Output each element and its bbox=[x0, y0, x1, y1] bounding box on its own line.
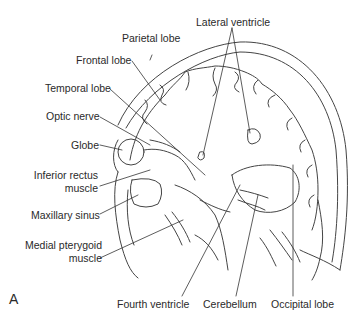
label-inferior-rectus-line1: Inferior rectus bbox=[30, 169, 98, 181]
label-medial-pterygoid: Medial pterygoid muscle bbox=[20, 239, 102, 264]
label-temporal-lobe: Temporal lobe bbox=[45, 82, 111, 94]
label-globe: Globe bbox=[71, 139, 99, 151]
label-maxillary-sinus: Maxillary sinus bbox=[31, 209, 100, 221]
label-optic-nerve: Optic nerve bbox=[46, 110, 100, 122]
label-medial-pterygoid-line2: muscle bbox=[20, 252, 102, 264]
label-inferior-rectus-line2: muscle bbox=[30, 182, 98, 194]
label-cerebellum: Cerebellum bbox=[203, 298, 257, 310]
anatomy-figure: Parietal lobe Lateral ventricle Frontal … bbox=[0, 0, 360, 324]
label-occipital-lobe: Occipital lobe bbox=[271, 298, 334, 310]
brain-sagittal-drawing bbox=[0, 0, 360, 324]
label-frontal-lobe: Frontal lobe bbox=[76, 54, 131, 66]
panel-label: A bbox=[9, 291, 18, 307]
label-medial-pterygoid-line1: Medial pterygoid bbox=[20, 239, 102, 251]
label-parietal-lobe: Parietal lobe bbox=[122, 32, 180, 44]
label-lateral-ventricle: Lateral ventricle bbox=[196, 16, 270, 28]
label-fourth-ventricle: Fourth ventricle bbox=[117, 298, 189, 310]
label-inferior-rectus: Inferior rectus muscle bbox=[30, 169, 98, 194]
